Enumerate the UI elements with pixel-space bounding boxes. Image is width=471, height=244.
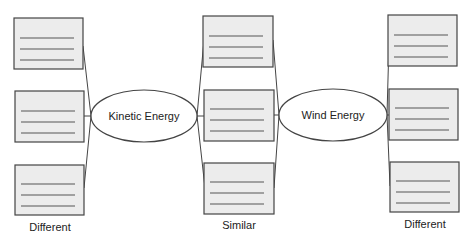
- left-column-label: Different: [20, 221, 80, 233]
- right-column-label: Different: [395, 218, 455, 230]
- right-box-2: [389, 89, 458, 140]
- connector-left-3: [84, 116, 91, 188]
- middle-box-1: [203, 16, 273, 67]
- middle-column-boxes: [203, 16, 274, 214]
- wind-energy-label: Wind Energy: [302, 109, 365, 121]
- right-column-boxes: [388, 15, 459, 212]
- middle-box-2: [204, 90, 274, 141]
- left-box-2: [15, 91, 84, 142]
- diagram-canvas: [0, 0, 471, 244]
- middle-box-3: [204, 163, 274, 214]
- connector-wind-mid-3: [274, 115, 279, 188]
- right-box-1: [388, 15, 457, 66]
- left-column-boxes: [14, 18, 84, 215]
- left-box-1: [14, 18, 83, 69]
- right-box-3: [390, 162, 459, 212]
- left-box-3: [15, 165, 84, 215]
- middle-column-label: Similar: [209, 219, 269, 231]
- kinetic-energy-label: Kinetic Energy: [109, 110, 180, 122]
